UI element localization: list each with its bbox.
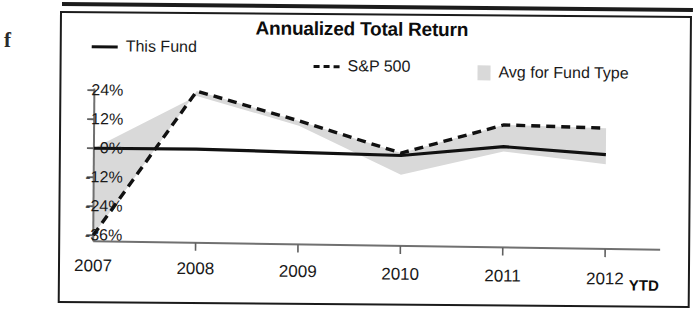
page-rule-divider — [62, 2, 693, 12]
x-tick-label: 2011 — [484, 267, 521, 287]
plot-area: 24%12%0%-12%-24%-36% 2007200820092010201… — [60, 13, 690, 306]
x-axis-ytd-note: YTD — [629, 277, 659, 294]
x-tick-label: 2008 — [176, 259, 214, 279]
page-bleed-glyph: f — [4, 28, 11, 53]
x-tick-label: 2010 — [381, 264, 419, 284]
x-tick-label: 2007 — [74, 256, 112, 276]
x-tick-label: 2012 — [586, 269, 624, 289]
x-tick-label: 2009 — [279, 261, 317, 281]
chart-frame: Annualized Total Return This Fund S&P 50… — [58, 11, 692, 308]
chart-plate: Annualized Total Return This Fund S&P 50… — [60, 13, 690, 306]
x-axis-tick-labels: 200720082009201020112012YTD — [60, 13, 690, 306]
